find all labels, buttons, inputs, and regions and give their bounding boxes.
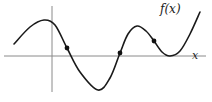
marked-point-root-crossing bbox=[118, 51, 123, 56]
marked-point-inflection-1 bbox=[65, 46, 70, 51]
x-axis-label: x bbox=[192, 49, 198, 62]
function-label: f(x) bbox=[160, 2, 181, 16]
function-curve bbox=[14, 12, 200, 90]
marked-point-inflection-2 bbox=[152, 39, 157, 44]
marked-points bbox=[65, 39, 157, 56]
